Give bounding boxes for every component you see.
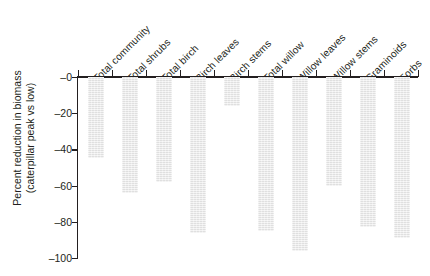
x-tick-mark — [248, 70, 249, 77]
y-axis-tick-labels: –0–20–40–60–80–100 — [36, 0, 72, 276]
bar — [190, 77, 207, 233]
bar-chart-figure: Percent reduction in biomass (caterpilla… — [0, 0, 430, 276]
y-tick-label: –40 — [38, 144, 72, 154]
y-tick-label: –60 — [38, 181, 72, 191]
bar — [258, 77, 275, 231]
bar — [224, 77, 241, 106]
bar — [88, 77, 105, 158]
y-tick-mark — [72, 186, 78, 187]
bar — [360, 77, 377, 227]
y-tick-label: –0 — [38, 72, 72, 82]
y-tick-mark — [72, 222, 78, 223]
y-tick-label: –100 — [38, 253, 72, 263]
bar — [122, 77, 139, 193]
bar — [326, 77, 343, 186]
y-tick-mark — [72, 149, 78, 150]
bar — [156, 77, 173, 182]
y-tick-mark — [72, 77, 78, 78]
y-tick-label: –80 — [38, 217, 72, 227]
y-axis-title-line1: Percent reduction in biomass — [11, 70, 24, 205]
x-tick-mark — [146, 70, 147, 77]
x-tick-mark — [112, 70, 113, 77]
y-axis-title-line2: (caterpillar peak vs low) — [23, 70, 36, 205]
y-tick-mark — [72, 113, 78, 114]
bar — [292, 77, 309, 251]
x-tick-mark — [316, 70, 317, 77]
x-tick-mark — [282, 70, 283, 77]
x-tick-mark — [214, 70, 215, 77]
x-tick-mark — [78, 70, 79, 77]
x-tick-mark — [350, 70, 351, 77]
plot-area — [78, 77, 418, 258]
x-tick-mark — [180, 70, 181, 77]
x-tick-mark — [384, 70, 385, 77]
bar — [394, 77, 411, 238]
y-axis-spine — [77, 76, 78, 258]
y-tick-mark — [72, 258, 78, 259]
category-label: Total community — [91, 23, 152, 84]
x-tick-mark — [418, 70, 419, 77]
y-tick-label: –20 — [38, 108, 72, 118]
